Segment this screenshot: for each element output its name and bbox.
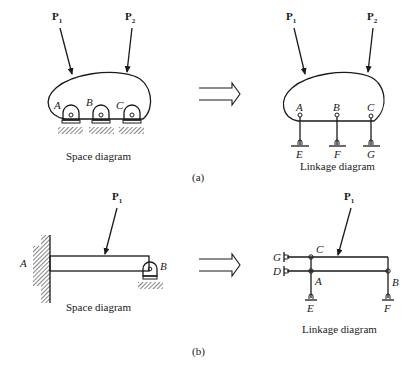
link-a-e [291,113,309,146]
load-label-p1: P1 [344,190,355,205]
point-label-a: A [19,257,27,269]
figure-canvas: P1 P2 A B C Space diagram [0,0,415,371]
ground-label-g: G [273,251,281,263]
joint-label-b: B [333,101,340,113]
load-label-p2: P2 [367,10,378,25]
load-arrow-p1 [294,28,305,74]
ground-label-d: D [272,265,281,277]
ground-label-f: F [333,148,341,160]
link-c-g [363,114,380,146]
joint-label-b: B [392,276,399,288]
joint-label-a: A [295,101,303,113]
point-label-c: C [116,99,124,111]
joint-label-a: A [314,275,322,287]
fixed-wall-support [33,235,50,303]
transform-arrow-b [199,254,240,276]
roller-support-b [89,105,114,134]
load-label-p1: P1 [112,190,123,205]
ground-label-f: F [383,302,391,314]
ground-label-e: E [295,148,303,160]
load-arrow-p1 [338,208,351,255]
linkage-diagram-a: P1 P2 A B C E F G Linkage diagram [283,10,384,172]
load-label-p1: P1 [52,10,63,25]
load-arrow-p1 [105,208,117,254]
space-diagram-b: P1 A B Space diagram [19,190,167,313]
ground-label-g: G [367,148,375,160]
roller-support-a [58,105,83,134]
transform-arrow-a [199,83,240,105]
joint-label-c: C [316,243,324,255]
load-arrow-p1 [60,28,72,74]
ground-label-e: E [306,302,314,314]
caption-linkage-diagram-a: Linkage diagram [300,160,375,172]
space-diagram-a: P1 P2 A B C Space diagram [48,10,150,162]
part-tag-b: (b) [192,345,205,358]
caption-space-diagram-b: Space diagram [66,301,131,313]
point-label-a: A [53,99,61,111]
cantilever-beam [50,256,149,271]
link-b-f [329,113,346,146]
point-label-b: B [86,96,93,108]
linkage-diagram-b: P1 C A B [272,190,399,335]
caption-linkage-diagram-b: Linkage diagram [302,323,377,335]
point-label-b: B [160,260,167,272]
load-arrow-p2 [368,28,373,72]
joint-label-c: C [367,101,375,113]
load-label-p1: P1 [286,10,297,25]
caption-space-diagram-a: Space diagram [66,150,131,162]
part-tag-a: (a) [192,171,205,184]
load-arrow-p2 [127,28,132,72]
load-label-p2: P2 [125,10,136,25]
